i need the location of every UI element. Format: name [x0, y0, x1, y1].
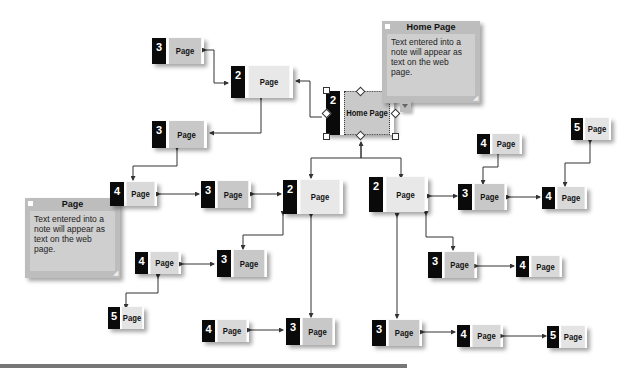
node-page[interactable]: 4 Page [457, 325, 503, 347]
level-number: 4 [542, 187, 555, 209]
node-label: Page [249, 66, 290, 98]
node-label: Page [169, 121, 204, 148]
divider [0, 364, 407, 368]
level-number: 3 [201, 181, 215, 208]
note-title: Home Page [382, 21, 480, 33]
level-number: 5 [571, 118, 583, 140]
note-text[interactable]: Text entered into a note will appear as … [387, 34, 475, 96]
node-page[interactable]: 3 Page [458, 184, 507, 210]
level-number: 2 [369, 177, 383, 212]
level-number: 5 [547, 326, 559, 348]
resize-handle[interactable] [392, 133, 399, 140]
note-close-icon[interactable] [385, 24, 390, 29]
note-text[interactable]: Text entered into a note will appear as … [30, 211, 115, 271]
node-label: Page [445, 252, 475, 278]
node-page[interactable]: 2 Page [369, 177, 428, 212]
node-page[interactable]: 3 Page [372, 320, 422, 346]
sitemap-canvas[interactable]: 2 Home Page Home Page Text entered into … [0, 0, 632, 373]
level-number: 3 [152, 121, 166, 148]
level-number: 2 [283, 180, 297, 214]
note-home-page[interactable]: Home Page Text entered into a note will … [382, 21, 480, 103]
node-page[interactable]: 4 Page [477, 134, 522, 154]
node-label: Page [389, 320, 420, 346]
level-number: 2 [231, 66, 245, 98]
node-label: Page [122, 307, 142, 329]
level-number: 3 [152, 38, 166, 64]
level-number: 4 [457, 325, 470, 347]
node-page[interactable]: 5 Page [571, 118, 611, 140]
note-page[interactable]: Page Text entered into a note will appea… [25, 198, 120, 278]
resize-handle[interactable] [323, 87, 330, 94]
node-page[interactable]: 3 Page [428, 252, 477, 278]
node-page[interactable]: 4 Page [135, 252, 181, 274]
note-close-icon[interactable] [28, 201, 33, 206]
node-label: Page [386, 177, 424, 212]
resize-grip-icon[interactable]: ◢ [113, 269, 118, 277]
node-label: Page [561, 326, 585, 348]
node-page[interactable]: 5 Page [108, 307, 144, 329]
node-page[interactable]: 2 Page [283, 180, 343, 214]
level-number: 3 [428, 252, 442, 278]
level-number: 4 [202, 320, 215, 342]
node-page[interactable]: 5 Page [547, 326, 587, 348]
node-page[interactable]: 4 Page [202, 320, 249, 342]
node-label: Page [300, 180, 339, 214]
node-label: Page [557, 187, 584, 209]
node-label: Page [126, 182, 154, 206]
level-number: 4 [516, 256, 529, 277]
level-number: 3 [458, 184, 472, 210]
node-label: Page [472, 325, 500, 347]
node-page[interactable]: 4 Page [542, 187, 587, 209]
node-label: Page [475, 184, 505, 210]
level-number: 4 [135, 252, 148, 274]
level-number: 3 [372, 320, 386, 346]
node-label: Page [234, 250, 265, 277]
level-number: 4 [477, 134, 490, 154]
node-page[interactable]: 3 Page [217, 250, 267, 277]
node-label: Page [169, 38, 201, 64]
level-number: 3 [286, 318, 300, 345]
node-page[interactable]: 3 Page [152, 38, 204, 64]
note-dropdown-icon[interactable] [400, 101, 411, 112]
level-number: 3 [217, 250, 231, 277]
node-label: Page [303, 318, 333, 345]
node-label: Page [585, 118, 609, 140]
resize-handle[interactable] [323, 133, 330, 140]
node-label: Page [218, 320, 247, 342]
node-page[interactable]: 4 Page [516, 256, 562, 277]
node-label: Page [150, 252, 178, 274]
level-number: 4 [110, 182, 124, 206]
node-page[interactable]: 3 Page [152, 121, 207, 148]
node-label: Page [531, 256, 559, 277]
node-page[interactable]: 2 Page [231, 66, 293, 98]
resize-grip-icon[interactable]: ◢ [473, 94, 478, 102]
node-label: Page [492, 134, 519, 154]
note-title: Page [25, 198, 120, 210]
node-label: Page [218, 181, 249, 208]
node-page[interactable]: 4 Page [110, 182, 157, 206]
level-number: 5 [108, 307, 120, 329]
node-page[interactable]: 3 Page [286, 318, 335, 345]
node-page[interactable]: 3 Page [201, 181, 251, 208]
